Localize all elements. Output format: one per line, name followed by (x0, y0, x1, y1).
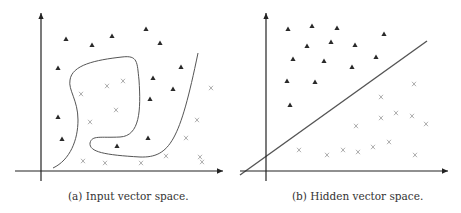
triangle-marker-icon (287, 102, 292, 107)
triangle-marker-icon (59, 136, 64, 141)
cross-marker-icon (105, 84, 109, 88)
triangle-marker-icon (284, 78, 289, 83)
cross-marker-icon (79, 92, 83, 96)
cross-marker-icon (121, 79, 125, 83)
cross-marker-icon (88, 120, 92, 124)
cross-marker-icon (412, 82, 416, 86)
triangle-marker-icon (373, 54, 378, 59)
triangle-marker-icon (285, 26, 290, 31)
triangle-marker-icon (334, 25, 339, 30)
cross-marker-icon (139, 161, 143, 165)
triangle-marker-icon (89, 42, 94, 47)
cross-marker-icon (297, 148, 301, 152)
triangle-marker-icon (143, 26, 148, 31)
cross-marker-icon (184, 136, 188, 140)
triangle-marker-icon (349, 64, 354, 69)
triangle-marker-icon (312, 79, 317, 84)
triangle-marker-icon (321, 58, 326, 63)
decision-boundary (53, 53, 198, 168)
cross-marker-icon (195, 118, 199, 122)
cross-marker-icon (103, 161, 107, 165)
cross-marker-icon (410, 114, 414, 118)
cross-marker-icon (354, 124, 358, 128)
cross-marker-icon (394, 111, 398, 115)
triangle-marker-icon (178, 64, 183, 69)
triangle-marker-icon (147, 96, 152, 101)
triangle-marker-icon (55, 114, 60, 119)
cross-marker-icon (387, 140, 391, 144)
triangle-marker-icon (145, 135, 150, 140)
triangle-marker-icon (55, 65, 60, 70)
decision-boundary (240, 41, 427, 175)
cross-marker-icon (209, 86, 213, 90)
cross-marker-icon (164, 154, 168, 158)
cross-marker-icon (413, 153, 417, 157)
cross-marker-icon (81, 159, 85, 163)
cross-marker-icon (356, 150, 360, 154)
panel-hidden-vector-space (240, 13, 448, 181)
caption-input-vector-space: (a) Input vector space. (68, 190, 188, 202)
cross-marker-icon (198, 155, 202, 159)
triangle-marker-icon (381, 31, 386, 36)
caption-hidden-vector-space: (b) Hidden vector space. (292, 190, 423, 202)
triangle-marker-icon (150, 75, 155, 80)
cross-marker-icon (325, 153, 329, 157)
triangle-marker-icon (309, 23, 314, 28)
triangle-marker-icon (328, 39, 333, 44)
triangle-marker-icon (304, 43, 309, 48)
cross-marker-icon (379, 116, 383, 120)
cross-marker-icon (371, 145, 375, 149)
triangle-marker-icon (109, 33, 114, 38)
figure-canvas (0, 0, 461, 213)
triangle-marker-icon (63, 36, 68, 41)
triangle-marker-icon (114, 143, 119, 148)
cross-marker-icon (341, 148, 345, 152)
panel-input-vector-space (15, 13, 223, 181)
cross-marker-icon (379, 95, 383, 99)
cross-marker-icon (200, 160, 204, 164)
cross-marker-icon (424, 122, 428, 126)
triangle-marker-icon (157, 40, 162, 45)
cross-marker-icon (114, 108, 118, 112)
triangle-marker-icon (170, 86, 175, 91)
triangle-marker-icon (290, 56, 295, 61)
triangle-marker-icon (352, 42, 357, 47)
